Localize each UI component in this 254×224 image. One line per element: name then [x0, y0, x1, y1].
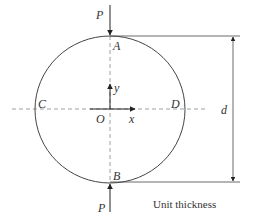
- point-c-label: C: [38, 97, 47, 111]
- diameter-label: d: [221, 103, 228, 117]
- load-label-bottom: P: [97, 201, 106, 215]
- point-d-label: D: [170, 97, 180, 111]
- x-axis-label: x: [128, 112, 135, 126]
- caption-unit-thickness: Unit thickness: [153, 198, 216, 210]
- origin-label: O: [96, 112, 105, 126]
- point-b-label: B: [113, 169, 121, 183]
- disc-diagram: d P P A B C D y x O Unit thickness: [0, 0, 254, 224]
- y-axis-label: y: [113, 81, 120, 95]
- load-label-top: P: [95, 8, 104, 22]
- point-a-label: A: [112, 39, 121, 53]
